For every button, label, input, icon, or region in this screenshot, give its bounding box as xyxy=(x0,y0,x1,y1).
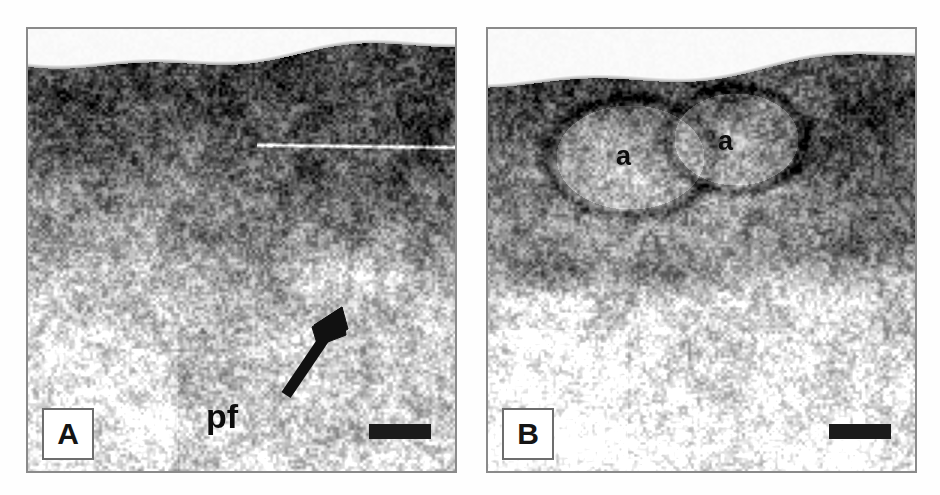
a-label-first: a xyxy=(616,143,631,170)
ultrasound-figure: pf A a a B xyxy=(0,0,940,495)
pf-label: pf xyxy=(206,399,238,433)
panel-b-tag: B xyxy=(502,408,554,460)
panel-a-tag: A xyxy=(42,408,94,460)
scale-bar-b xyxy=(829,424,891,439)
scale-bar-a xyxy=(369,424,431,439)
panel-b: a a B xyxy=(486,27,917,473)
ultrasound-image-b xyxy=(488,29,915,471)
ultrasound-image-a xyxy=(28,29,455,471)
a-label-second: a xyxy=(718,128,733,155)
panel-a: pf A xyxy=(26,27,457,473)
